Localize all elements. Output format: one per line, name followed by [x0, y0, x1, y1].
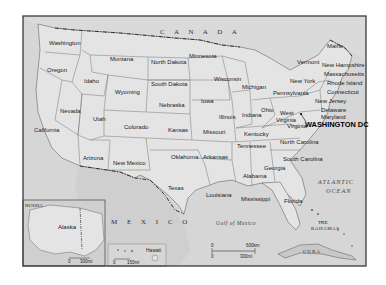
state-label-tennessee: Tennessee — [237, 143, 267, 149]
state-label-new-hampshire: New Hampshire — [322, 62, 365, 68]
state-label-north-carolina: North Carolina — [280, 139, 319, 145]
state-label-oregon: Oregon — [47, 67, 67, 73]
gulf-label: Gulf of Mexico — [216, 220, 256, 226]
state-label-iowa: Iowa — [201, 98, 214, 104]
state-label-south-dakota: South Dakota — [151, 81, 188, 87]
state-label-hawaii: Hawaii — [146, 247, 161, 253]
state-label-nevada: Nevada — [60, 108, 81, 114]
us-map: C A N A D A M E X I C O RUSSIA CUBA THE … — [0, 0, 386, 285]
svg-text:300mi: 300mi — [240, 254, 252, 259]
country-label-bahamas-2: BAHAMAS — [311, 226, 340, 231]
state-label-west-virginia-2: Virginia — [276, 117, 297, 123]
state-label-south-carolina: South Carolina — [283, 156, 323, 162]
state-label-arkansas: Arkansas — [203, 154, 228, 160]
state-label-wisconsin: Wisconsin — [214, 76, 241, 82]
state-label-wyoming: Wyoming — [115, 89, 140, 95]
country-label-cuba: CUBA — [303, 249, 321, 254]
state-label-north-dakota: North Dakota — [151, 59, 187, 65]
ocean-label-atlantic-1: ATLANTIC — [317, 178, 354, 185]
state-label-west-virginia-1: West — [280, 110, 294, 116]
country-label-russia: RUSSIA — [25, 203, 43, 208]
state-label-missouri: Missouri — [203, 129, 225, 135]
svg-text:300mi: 300mi — [80, 259, 92, 264]
state-label-ohio: Ohio — [261, 107, 274, 113]
state-label-texas: Texas — [168, 185, 184, 191]
state-label-louisiana: Louisiana — [206, 192, 232, 198]
state-label-delaware: Delaware — [321, 107, 347, 113]
ocean-label-atlantic-2: OCEAN — [326, 187, 351, 194]
state-label-maine: Maine — [327, 43, 344, 49]
state-label-idaho: Idaho — [84, 78, 100, 84]
state-label-indiana: Indiana — [242, 112, 262, 118]
state-label-nebraska: Nebraska — [159, 102, 185, 108]
country-label-bahamas-1: THE — [318, 220, 328, 225]
state-label-massachusetts: Massachusetts — [324, 71, 364, 77]
state-label-washington: Washington — [49, 40, 80, 46]
state-label-pennsylvania: Pennsylvania — [273, 90, 309, 96]
state-label-new-jersey: New Jersey — [315, 98, 346, 104]
state-label-alaska: Alaska — [58, 224, 77, 230]
state-label-california: California — [34, 127, 60, 133]
country-label-mexico: M E X I C O — [111, 218, 191, 226]
state-label-montana: Montana — [110, 56, 134, 62]
state-label-kansas: Kansas — [168, 127, 188, 133]
state-label-new-mexico: New Mexico — [113, 160, 146, 166]
svg-text:600km: 600km — [246, 243, 260, 248]
state-label-connecticut: Connecticut — [327, 89, 359, 95]
state-label-rhode-island: Rhode Island — [327, 80, 362, 86]
state-label-kentucky: Kentucky — [244, 131, 269, 137]
state-label-oklahoma: Oklahoma — [171, 154, 199, 160]
state-label-georgia: Georgia — [264, 165, 286, 171]
country-label-canada: C A N A D A — [160, 28, 241, 36]
state-label-colorado: Colorado — [124, 124, 149, 130]
state-label-illinois: Illinois — [219, 114, 236, 120]
state-label-new-york: New York — [290, 78, 316, 84]
state-label-mississippi: Mississippi — [241, 196, 270, 202]
state-label-michigan: Michigan — [242, 84, 266, 90]
state-label-arizona: Arizona — [83, 155, 104, 161]
svg-text:150mi: 150mi — [127, 260, 139, 265]
capital-label: WASHINGTON DC — [305, 120, 369, 129]
state-label-florida: Florida — [284, 198, 303, 204]
state-label-minnesota: Minnesota — [189, 53, 217, 59]
state-label-vermont: Vermont — [297, 59, 320, 65]
alaska-inset — [23, 200, 105, 266]
state-label-alabama: Alabama — [243, 173, 267, 179]
state-label-utah: Utah — [93, 116, 106, 122]
